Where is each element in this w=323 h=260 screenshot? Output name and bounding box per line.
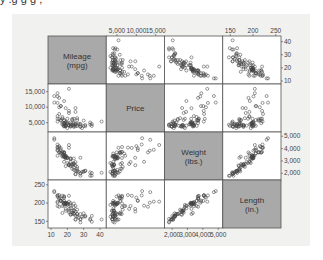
tick-label-right-weight-2: 4,000 <box>284 145 301 152</box>
tick-label-right-mileage-2: 30 <box>284 51 292 58</box>
tick-label-right-weight-0: 2,000 <box>284 169 301 176</box>
tick-label-top-price-0: 5,000 <box>109 27 126 34</box>
tick-label-bottom-weight-1: 3,000 <box>179 231 196 238</box>
tick-label-bottom-weight-3: 5,000 <box>210 231 227 238</box>
tick-label-left-price-0: 5,000 <box>29 119 46 126</box>
tick-label-left-price-2: 15,000 <box>25 88 45 95</box>
tick-label-right-mileage-0: 10 <box>284 77 292 84</box>
tick-label-bottom-mileage-3: 40 <box>96 231 104 238</box>
tick-label-top-length-1: 200 <box>248 27 259 34</box>
tick-label-right-mileage-3: 40 <box>284 38 292 45</box>
tick-label-left-length-1: 200 <box>34 199 45 206</box>
tick-label-right-mileage-1: 20 <box>284 64 292 71</box>
variable-label-length: Length <box>240 196 264 205</box>
tick-label-bottom-mileage-2: 30 <box>80 231 88 238</box>
variable-unit-mileage: (mpg) <box>67 61 88 70</box>
tick-label-top-price-2: 15,000 <box>146 27 166 34</box>
tick-label-top-length-2: 250 <box>270 27 281 34</box>
tick-label-left-length-0: 150 <box>34 218 45 225</box>
tick-label-right-weight-3: 5,000 <box>284 132 301 139</box>
tick-label-left-length-2: 250 <box>34 181 45 188</box>
tick-label-bottom-weight-2: 4,000 <box>195 231 212 238</box>
tick-label-right-weight-1: 3,000 <box>284 157 301 164</box>
variable-label-weight: Weight <box>181 148 207 157</box>
scatterplot-matrix: Mileage(mpg)PriceWeight(lbs.)Length(in.)… <box>0 0 323 260</box>
tick-label-top-length-0: 150 <box>225 27 236 34</box>
tick-label-bottom-mileage-1: 20 <box>64 231 72 238</box>
tick-label-left-price-1: 10,000 <box>25 103 45 110</box>
variable-unit-length: (in.) <box>245 205 259 214</box>
variable-label-price: Price <box>126 104 145 113</box>
tick-label-bottom-mileage-0: 10 <box>47 231 55 238</box>
tick-label-top-price-1: 10,000 <box>126 27 146 34</box>
variable-label-mileage: Mileage <box>63 52 92 61</box>
tick-label-bottom-weight-0: 2,000 <box>164 231 181 238</box>
variable-unit-weight: (lbs.) <box>185 157 203 166</box>
